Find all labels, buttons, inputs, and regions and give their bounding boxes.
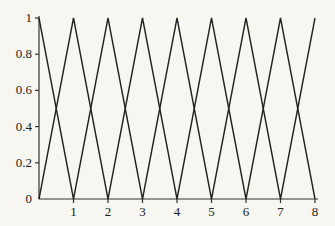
x-tick-label: 2 <box>105 204 112 219</box>
y-tick-label: 0.4 <box>16 119 33 134</box>
x-tick-label: 4 <box>174 204 181 219</box>
y-tick-label: 1 <box>26 10 33 25</box>
x-tick-label: 3 <box>139 204 146 219</box>
series-line-zigzag-even-peaks <box>39 18 315 199</box>
series-line-zigzag-odd-peaks <box>39 18 315 199</box>
chart: 00.20.40.60.8112345678 <box>0 0 335 226</box>
x-tick-label: 5 <box>208 204 215 219</box>
x-tick-label: 6 <box>243 204 250 219</box>
y-tick-label: 0.8 <box>16 46 32 61</box>
y-tick-label: 0.2 <box>16 155 32 170</box>
y-tick-label: 0.6 <box>16 82 33 97</box>
x-tick-label: 8 <box>312 204 319 219</box>
y-tick-label: 0 <box>26 191 33 206</box>
x-tick-label: 7 <box>277 204 284 219</box>
x-tick-label: 1 <box>70 204 77 219</box>
